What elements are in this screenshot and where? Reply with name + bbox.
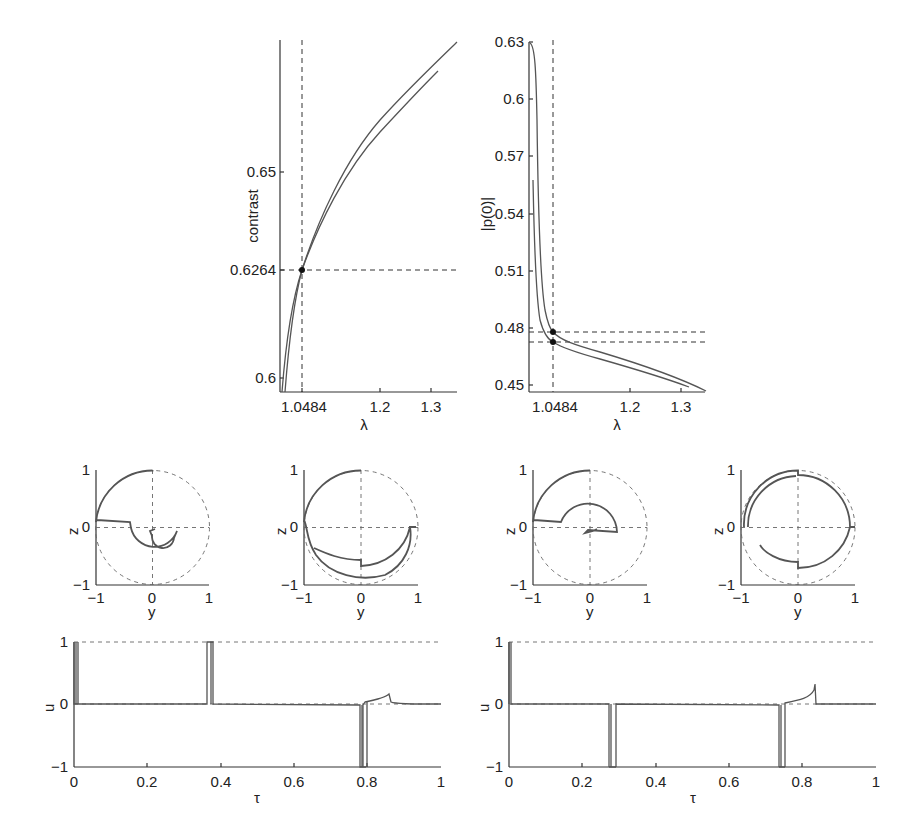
y-tick-label: 0 (519, 518, 527, 535)
trajectory (533, 470, 617, 533)
y-tick-label: 1 (727, 461, 735, 478)
chart-phase-y1z1-left: 1 0 −1 −1 0 1 y z (64, 461, 213, 620)
chart-phase-y1z1-right: 1 0 −1 −1 0 1 y z (501, 461, 651, 620)
contrast-curve-outer (282, 42, 457, 392)
x-axis-label: λ (613, 416, 621, 433)
x-tick-label: 1 (437, 773, 445, 790)
y-tick-label: 0.6264 (230, 261, 276, 278)
chart-contrast-vs-lambda: 0.65 0.6264 0.6 1.0484 1.2 1.3 λ contras… (230, 40, 457, 433)
y-tick-label: 0.45 (495, 376, 524, 393)
x-tick-label: 0.6 (284, 773, 305, 790)
y-tick-label: −1 (51, 758, 68, 775)
y-axis-label: u (40, 704, 57, 712)
y-tick-label: 0.54 (495, 205, 524, 222)
operating-point-marker (299, 267, 305, 273)
x-tick-label: 1 (851, 589, 859, 606)
chart-phase-y2z2-left: 1 0 −1 −1 0 1 y z (272, 461, 422, 620)
chart-phase-y2z2-right: 1 0 −1 −1 0 1 y z (709, 461, 859, 620)
y-tick-label: 0 (727, 518, 735, 535)
x-tick-label: 1 (205, 589, 213, 606)
x-axis-label: y (586, 603, 594, 620)
contrast-curve-inner (285, 71, 438, 392)
x-axis-label: τ (690, 789, 696, 806)
x-tick-label: −1 (295, 589, 312, 606)
x-axis-label: τ (254, 789, 260, 806)
y-axis-label: contrast (244, 188, 261, 242)
x-tick-label: 0.2 (572, 773, 593, 790)
y-tick-label: −1 (486, 758, 503, 775)
x-tick-label: 0.2 (137, 773, 158, 790)
u1-signal (509, 642, 876, 767)
x-tick-label: 0 (70, 773, 78, 790)
x-tick-label: 1.0484 (532, 398, 578, 415)
x-tick-label: −1 (87, 589, 104, 606)
y-axis-label: z (272, 528, 289, 536)
x-tick-label: 0.4 (211, 773, 232, 790)
y-axis-label: z (709, 528, 726, 536)
x-tick-label: 0.6 (719, 773, 740, 790)
x-tick-label: 0 (505, 773, 513, 790)
x-tick-label: 1.2 (620, 398, 641, 415)
x-tick-label: 1.3 (421, 398, 442, 415)
y-tick-label: 1 (519, 461, 527, 478)
trajectory (96, 470, 177, 548)
chart-control-u1-left: 1 0 −1 0 0.2 0.4 0.6 0.8 1 τ u (40, 633, 445, 806)
trajectory (304, 470, 416, 577)
x-tick-label: −1 (524, 589, 541, 606)
y-axis-label: z (64, 528, 81, 536)
y-axis-label: |p(0)| (478, 197, 495, 231)
operating-point-marker-upper (550, 329, 556, 335)
y-tick-label: 0.65 (247, 163, 276, 180)
y-tick-label: 0 (82, 518, 90, 535)
y-tick-label: 0 (290, 518, 298, 535)
x-tick-label: 1.3 (671, 398, 692, 415)
operating-point-marker-lower (550, 339, 556, 345)
y-tick-label: 1 (82, 461, 90, 478)
y-tick-label: 0.6 (255, 369, 276, 386)
y-tick-label: 0.63 (495, 33, 524, 50)
x-tick-label: −1 (732, 589, 749, 606)
x-axis-label: y (357, 603, 365, 620)
u1-signal (74, 642, 441, 767)
x-axis-label: y (794, 603, 802, 620)
y-tick-label: 0 (60, 695, 68, 712)
p0-curve-upper (530, 43, 706, 391)
trajectory (744, 470, 855, 568)
chart-p0-vs-lambda: 0.63 0.6 0.57 0.54 0.51 0.48 0.45 1.0484… (478, 33, 709, 433)
y-tick-label: 1 (290, 461, 298, 478)
x-tick-label: 0.4 (646, 773, 667, 790)
y-axis-label: u (475, 704, 492, 712)
y-tick-label: 0.57 (495, 147, 524, 164)
y-tick-label: 0 (495, 695, 503, 712)
x-tick-label: 1.2 (370, 398, 391, 415)
x-tick-label: 0.8 (792, 773, 813, 790)
x-axis-label: λ (360, 416, 368, 433)
x-tick-label: 0.8 (357, 773, 378, 790)
x-tick-label: 1 (643, 589, 651, 606)
x-axis-label: y (148, 603, 156, 620)
y-tick-label: 1 (60, 633, 68, 650)
y-tick-label: 0.51 (495, 262, 524, 279)
y-tick-label: 1 (495, 633, 503, 650)
y-axis-label: z (501, 528, 518, 536)
y-tick-label: 0.6 (503, 90, 524, 107)
figure: 0.65 0.6264 0.6 1.0484 1.2 1.3 λ contras… (0, 0, 909, 820)
x-tick-label: 1.0484 (281, 398, 327, 415)
chart-control-u1-right: 1 0 −1 0 0.2 0.4 0.6 0.8 1 τ u (475, 633, 880, 806)
x-tick-label: 1 (872, 773, 880, 790)
x-tick-label: 1 (414, 589, 422, 606)
y-tick-label: 0.48 (495, 319, 524, 336)
